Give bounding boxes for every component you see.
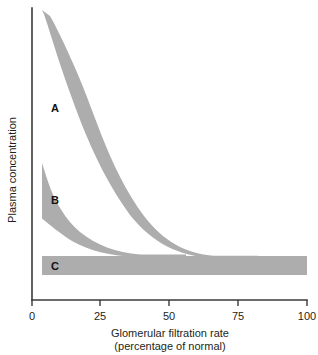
band-a-area: [42, 10, 258, 258]
x-axis-title-line2: (percentage of normal): [114, 340, 225, 352]
x-tick-label-50: 50: [163, 310, 175, 322]
band-c-area: [42, 256, 307, 275]
chart-figure: A B C 0 25 50 75 100 Glomerular filtrati…: [0, 0, 318, 355]
x-tick-label-0: 0: [29, 310, 35, 322]
y-axis-title: Plasma concentration: [6, 117, 18, 223]
x-tick-label-100: 100: [298, 310, 316, 322]
x-axis-title-line1: Glomerular filtration rate: [111, 327, 229, 339]
band-label-b: B: [51, 194, 59, 206]
band-label-a: A: [51, 102, 59, 114]
x-axis-ticks: [32, 300, 307, 306]
plasma-concentration-chart: A B C 0 25 50 75 100 Glomerular filtrati…: [0, 0, 318, 355]
x-tick-label-25: 25: [94, 310, 106, 322]
band-label-c: C: [51, 260, 59, 272]
x-tick-label-75: 75: [232, 310, 244, 322]
